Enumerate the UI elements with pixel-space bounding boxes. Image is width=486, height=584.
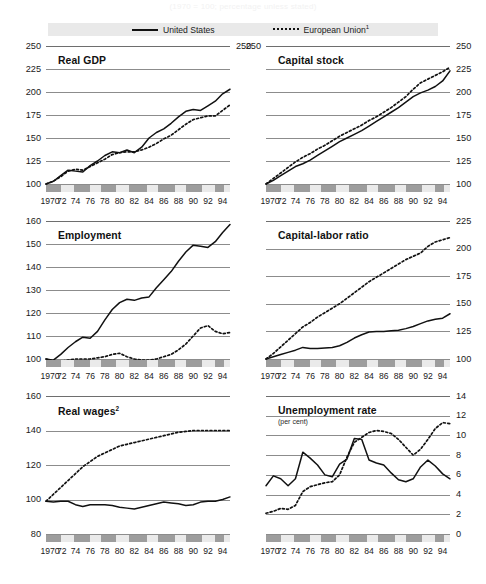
figure-supertitle: (1970 = 100; percentage unless stated) xyxy=(0,2,486,11)
x-tick-label-unemployment-rate-94: 94 xyxy=(438,545,448,557)
charts-grid: 100125150175200225250250Real GDP19707274… xyxy=(0,38,486,584)
y-tick-label-capital-stock-250: 250 xyxy=(456,42,486,51)
x-tick-label-capital-stock-78: 78 xyxy=(320,195,330,207)
period-band-capital-stock xyxy=(266,185,450,192)
period-band-unemployment-rate xyxy=(266,535,450,542)
x-tick-label-unemployment-rate-74: 74 xyxy=(291,545,301,557)
y-tick-label-unemployment-rate-6: 6 xyxy=(456,470,486,479)
series-canvas-capital-labor-ratio xyxy=(266,221,450,359)
period-band-segment xyxy=(349,535,367,542)
chart-title-capital-stock: Capital stock xyxy=(278,55,344,66)
chart-title-unemployment-rate: Unemployment rate xyxy=(278,405,377,416)
y-tick-label-capital-stock-175: 175 xyxy=(456,111,486,120)
series-canvas-unemployment-rate xyxy=(266,396,450,534)
y-tick-label-unemployment-rate-12: 12 xyxy=(456,411,486,420)
x-tick-label-capital-labor-ratio-82: 82 xyxy=(350,370,360,382)
legend-item-united-states: United States xyxy=(132,25,215,35)
x-tick-label-capital-labor-ratio-94: 94 xyxy=(438,370,448,382)
y-tick-label-capital-stock-225: 225 xyxy=(456,65,486,74)
y-tick-label-mirror-capital-stock: 250 xyxy=(8,42,261,51)
x-tick-label-capital-labor-ratio-72: 72 xyxy=(277,370,287,382)
x-tick-label-capital-labor-ratio-78: 78 xyxy=(320,370,330,382)
x-tick-label-unemployment-rate-80: 80 xyxy=(335,545,345,557)
period-band-segment xyxy=(435,535,444,542)
period-band-segment xyxy=(406,185,423,192)
y-tick-label-capital-labor-ratio-200: 200 xyxy=(456,244,486,253)
y-tick-label-capital-stock-100: 100 xyxy=(456,180,486,189)
period-band-segment xyxy=(435,360,444,367)
legend-label-european-union: European Union1 xyxy=(304,24,369,35)
plot-area-unemployment-rate xyxy=(266,396,450,534)
x-tick-label-capital-labor-ratio-84: 84 xyxy=(364,370,374,382)
y-tick-label-capital-stock-125: 125 xyxy=(456,157,486,166)
period-band-segment xyxy=(349,185,367,192)
x-tick-label-capital-stock-94: 94 xyxy=(438,195,448,207)
period-band-segment xyxy=(266,360,281,367)
x-tick-label-capital-labor-ratio-80: 80 xyxy=(335,370,345,382)
period-band-segment xyxy=(406,535,423,542)
period-band-segment xyxy=(378,535,395,542)
x-axis-unemployment-rate: 1970727476788082848688909294 xyxy=(266,545,450,557)
y-tick-label-capital-labor-ratio-150: 150 xyxy=(456,299,486,308)
x-tick-label-capital-labor-ratio-90: 90 xyxy=(408,370,418,382)
x-tick-label-capital-stock-92: 92 xyxy=(423,195,433,207)
period-band-segment xyxy=(435,185,444,192)
chart-panel-capital-stock: 100125150175200225250250Capital stock197… xyxy=(0,46,486,214)
period-band-segment xyxy=(378,185,395,192)
x-tick-label-capital-stock-72: 72 xyxy=(277,195,287,207)
period-band-segment xyxy=(294,360,311,367)
chart-subtitle-unemployment-rate: (per cent) xyxy=(278,418,308,425)
x-tick-label-capital-stock-76: 76 xyxy=(305,195,315,207)
chart-title-capital-labor-ratio: Capital-labor ratio xyxy=(278,230,369,241)
period-band-segment xyxy=(294,535,311,542)
y-tick-label-capital-labor-ratio-175: 175 xyxy=(456,272,486,281)
x-tick-label-unemployment-rate-78: 78 xyxy=(320,545,330,557)
legend-item-european-union: European Union1 xyxy=(273,24,369,35)
period-band-segment xyxy=(266,535,281,542)
y-tick-label-unemployment-rate-2: 2 xyxy=(456,510,486,519)
period-band-segment xyxy=(406,360,423,367)
chart-legend: United States European Union1 xyxy=(48,23,438,36)
period-band-segment xyxy=(378,360,395,367)
plot-area-capital-stock xyxy=(266,46,450,184)
y-tick-label-capital-stock-150: 150 xyxy=(456,134,486,143)
y-tick-label-capital-stock-200: 200 xyxy=(456,88,486,97)
y-tick-label-unemployment-rate-10: 10 xyxy=(456,431,486,440)
y-tick-label-capital-labor-ratio-225: 225 xyxy=(456,217,486,226)
x-tick-label-unemployment-rate-72: 72 xyxy=(277,545,287,557)
period-band-capital-labor-ratio xyxy=(266,360,450,367)
y-tick-label-capital-labor-ratio-100: 100 xyxy=(456,355,486,364)
y-tick-label-capital-labor-ratio-125: 125 xyxy=(456,327,486,336)
y-tick-label-unemployment-rate-4: 4 xyxy=(456,490,486,499)
x-tick-label-capital-labor-ratio-92: 92 xyxy=(423,370,433,382)
x-tick-label-capital-labor-ratio-86: 86 xyxy=(379,370,389,382)
x-tick-label-unemployment-rate-76: 76 xyxy=(305,545,315,557)
dotted-line-swatch-icon xyxy=(273,28,299,30)
x-tick-label-unemployment-rate-92: 92 xyxy=(423,545,433,557)
x-tick-label-capital-labor-ratio-76: 76 xyxy=(305,370,315,382)
chart-panel-capital-labor-ratio: 100125150175200225Capital-labor ratio197… xyxy=(0,221,486,389)
series-line-unemployment-rate-united-states xyxy=(266,438,450,485)
x-tick-label-unemployment-rate-88: 88 xyxy=(394,545,404,557)
x-tick-label-unemployment-rate-84: 84 xyxy=(364,545,374,557)
x-tick-label-unemployment-rate-90: 90 xyxy=(408,545,418,557)
x-tick-label-capital-stock-90: 90 xyxy=(408,195,418,207)
x-axis-capital-stock: 1970727476788082848688909294 xyxy=(266,195,450,207)
period-band-segment xyxy=(321,360,336,367)
series-line-capital-labor-ratio-european-union xyxy=(266,238,450,359)
y-tick-label-unemployment-rate-14: 14 xyxy=(456,392,486,401)
x-tick-label-capital-stock-84: 84 xyxy=(364,195,374,207)
period-band-segment xyxy=(349,360,367,367)
x-tick-label-capital-stock-80: 80 xyxy=(335,195,345,207)
y-tick-label-unemployment-rate-0: 0 xyxy=(456,530,486,539)
x-tick-label-capital-labor-ratio-88: 88 xyxy=(394,370,404,382)
solid-line-swatch-icon xyxy=(132,29,158,31)
legend-label-united-states: United States xyxy=(163,25,215,35)
period-band-segment xyxy=(266,185,281,192)
series-line-unemployment-rate-european-union xyxy=(266,423,450,514)
x-tick-label-capital-stock-88: 88 xyxy=(394,195,404,207)
x-tick-label-capital-stock-86: 86 xyxy=(379,195,389,207)
series-line-capital-stock-european-union xyxy=(266,67,450,184)
x-tick-label-unemployment-rate-86: 86 xyxy=(379,545,389,557)
series-canvas-capital-stock xyxy=(266,46,450,184)
